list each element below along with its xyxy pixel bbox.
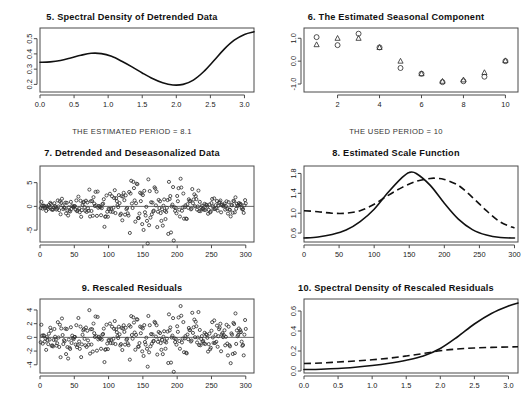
svg-text:250: 250	[473, 250, 485, 259]
panel-8-plot: 0501001502002503000.61.01.41.8	[264, 160, 528, 270]
svg-text:150: 150	[137, 381, 149, 390]
svg-text:1.5: 1.5	[401, 381, 411, 390]
panel-8-title: 8. Estimated Scale Function	[264, 148, 528, 158]
panel-9-rescaled-residuals: 9. Rescaled Residuals 050100150200250300…	[0, 275, 264, 405]
used-period-caption: THE USED PERIOD = 10	[264, 127, 528, 136]
panel-10-plot: 0.00.51.01.52.02.53.00.00.20.40.6	[264, 293, 528, 401]
svg-text:0.0: 0.0	[299, 381, 309, 390]
svg-text:1.8: 1.8	[289, 168, 298, 178]
svg-text:0: 0	[25, 204, 34, 208]
panel-7-detrended-deseasonalized-data: 7. Detrended and Deseasonalized Data 050…	[0, 140, 264, 275]
svg-text:2: 2	[336, 100, 340, 109]
svg-text:1.0: 1.0	[289, 33, 298, 43]
svg-text:0.3: 0.3	[25, 64, 34, 74]
panel-6-title: 6. The Estimated Seasonal Component	[264, 12, 528, 22]
svg-text:0.2: 0.2	[289, 346, 298, 356]
svg-text:0.5: 0.5	[25, 34, 34, 44]
svg-text:250: 250	[205, 381, 217, 390]
svg-text:0.5: 0.5	[69, 100, 79, 109]
panel-10-title: 10. Spectral Density of Rescaled Residua…	[264, 283, 528, 293]
svg-text:0.4: 0.4	[289, 326, 298, 336]
svg-text:0.0: 0.0	[35, 100, 45, 109]
svg-text:0.0: 0.0	[289, 366, 298, 376]
svg-text:1.5: 1.5	[137, 100, 147, 109]
panel-5-svg: 0.00.51.01.52.02.53.00.20.30.40.5	[0, 22, 264, 117]
svg-text:0.2: 0.2	[25, 79, 34, 89]
panel-6-plot: 246810-1.00.01.0	[264, 22, 528, 117]
svg-text:4: 4	[25, 308, 34, 312]
svg-text:-5: -5	[25, 227, 34, 234]
svg-text:1.0: 1.0	[289, 208, 298, 218]
svg-text:2.5: 2.5	[205, 100, 215, 109]
panel-7-plot: 050100150200250300-505	[0, 160, 264, 270]
svg-text:3.0: 3.0	[503, 381, 513, 390]
svg-text:300: 300	[240, 250, 252, 259]
panel-9-plot: 050100150200250300-4-2024	[0, 293, 264, 401]
svg-text:5: 5	[25, 181, 34, 185]
panel-9-svg: 050100150200250300-4-2024	[0, 293, 264, 401]
svg-text:0.6: 0.6	[289, 228, 298, 238]
svg-text:0.5: 0.5	[333, 381, 343, 390]
svg-text:250: 250	[205, 250, 217, 259]
svg-text:100: 100	[102, 381, 114, 390]
svg-text:0: 0	[38, 381, 42, 390]
svg-text:200: 200	[171, 250, 183, 259]
panel-10-spectral-density-rescaled-residuals: 10. Spectral Density of Rescaled Residua…	[264, 275, 528, 405]
svg-text:-1.0: -1.0	[289, 78, 298, 91]
panel-10-svg: 0.00.51.01.52.02.53.00.00.20.40.6	[264, 293, 528, 401]
svg-text:100: 100	[102, 250, 114, 259]
figure-grid: 5. Spectral Density of Detrended Data 0.…	[0, 0, 528, 405]
svg-text:0: 0	[302, 250, 306, 259]
svg-text:150: 150	[403, 250, 415, 259]
panel-6-estimated-seasonal-component: 6. The Estimated Seasonal Component 2468…	[264, 0, 528, 140]
svg-text:10: 10	[501, 100, 509, 109]
panel-5-plot: 0.00.51.01.52.02.53.00.20.30.40.5	[0, 22, 264, 117]
panel-7-title: 7. Detrended and Deseasonalized Data	[0, 148, 264, 158]
svg-text:0: 0	[25, 335, 34, 339]
svg-text:6: 6	[419, 100, 423, 109]
panel-9-title: 9. Rescaled Residuals	[0, 283, 264, 293]
panel-8-estimated-scale-function: 8. Estimated Scale Function 050100150200…	[264, 140, 528, 275]
svg-text:2.5: 2.5	[469, 381, 479, 390]
svg-text:0.6: 0.6	[289, 306, 298, 316]
panel-5-title: 5. Spectral Density of Detrended Data	[0, 12, 264, 22]
svg-text:2.0: 2.0	[171, 100, 181, 109]
svg-text:-4: -4	[25, 361, 34, 368]
svg-text:300: 300	[508, 250, 520, 259]
svg-text:0: 0	[38, 250, 42, 259]
panel-5-spectral-density-detrended: 5. Spectral Density of Detrended Data 0.…	[0, 0, 264, 140]
svg-text:3.0: 3.0	[239, 100, 249, 109]
svg-text:2.0: 2.0	[435, 381, 445, 390]
svg-text:300: 300	[240, 381, 252, 390]
svg-text:0.4: 0.4	[25, 49, 34, 59]
panel-7-svg: 050100150200250300-505	[0, 160, 264, 270]
svg-text:200: 200	[171, 381, 183, 390]
panel-8-svg: 0501001502002503000.61.01.41.8	[264, 160, 528, 270]
svg-text:1.0: 1.0	[103, 100, 113, 109]
svg-text:50: 50	[335, 250, 343, 259]
svg-text:100: 100	[368, 250, 380, 259]
estimated-period-caption: THE ESTIMATED PERIOD = 8.1	[0, 127, 264, 136]
svg-text:8: 8	[461, 100, 465, 109]
svg-text:1.0: 1.0	[367, 381, 377, 390]
svg-text:200: 200	[438, 250, 450, 259]
svg-text:4: 4	[377, 100, 381, 109]
svg-text:0.0: 0.0	[289, 56, 298, 66]
svg-text:50: 50	[70, 381, 78, 390]
svg-text:150: 150	[137, 250, 149, 259]
svg-text:2: 2	[25, 322, 34, 326]
svg-text:50: 50	[70, 250, 78, 259]
svg-text:-2: -2	[25, 348, 34, 355]
svg-text:1.4: 1.4	[289, 188, 298, 198]
panel-6-svg: 246810-1.00.01.0	[264, 22, 528, 117]
